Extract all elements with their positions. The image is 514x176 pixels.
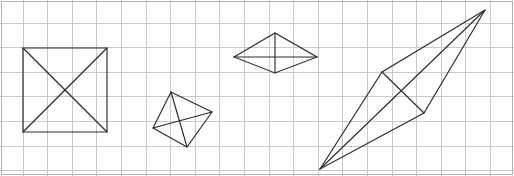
figure-canvas (0, 0, 514, 176)
figure-svg (0, 0, 514, 176)
canvas-background (0, 0, 514, 176)
